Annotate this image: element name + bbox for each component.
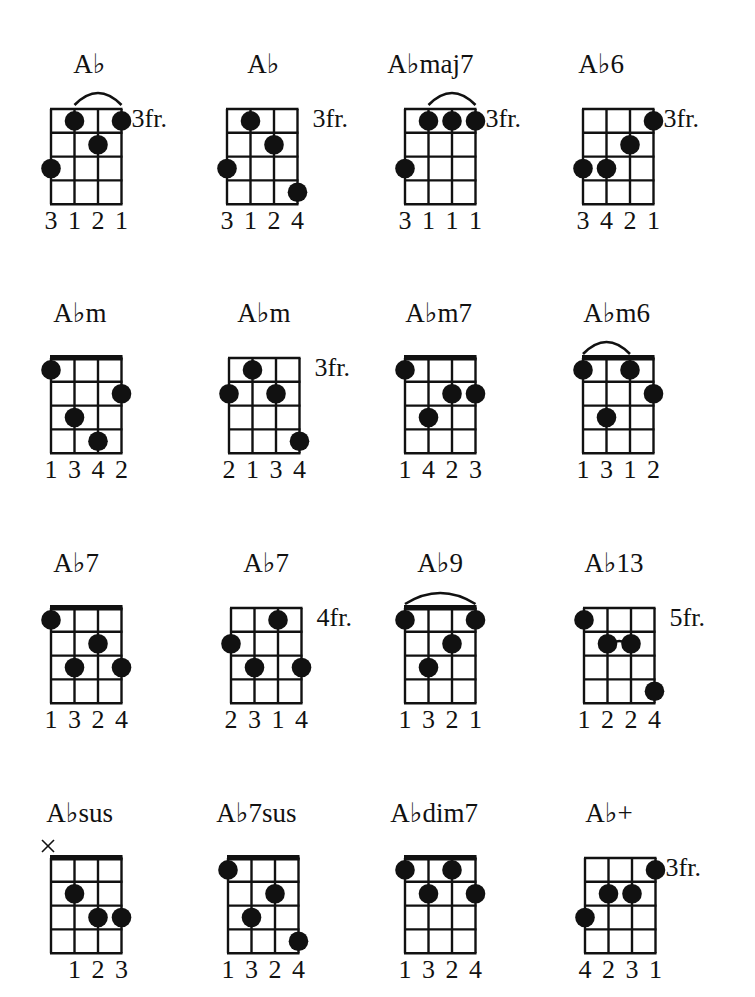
finger-number: 4 <box>466 957 486 983</box>
finger-number: 2 <box>219 457 239 483</box>
finger-number: 3 <box>41 208 61 234</box>
finger-number: 4 <box>290 457 310 483</box>
finger-number: 4 <box>112 707 132 733</box>
finger-dot <box>266 384 286 404</box>
finger-number: 2 <box>598 707 618 733</box>
finger-number: 1 <box>268 707 288 733</box>
finger-dot <box>442 634 462 654</box>
finger-dot <box>112 908 132 928</box>
chord-diagram-2: A♭maj7 3fr. 3111 <box>385 49 555 249</box>
fret-position-label: 5fr. <box>670 605 705 631</box>
finger-number: 1 <box>395 457 415 483</box>
chord-diagram-9: A♭7 4fr. 2314 <box>211 548 381 748</box>
finger-number: 3 <box>245 707 265 733</box>
finger-number: 4 <box>289 957 309 983</box>
finger-dot <box>41 610 61 630</box>
finger-number: 2 <box>88 208 108 234</box>
finger-dot <box>290 432 310 452</box>
finger-number: 3 <box>242 957 262 983</box>
finger-number: 1 <box>65 208 85 234</box>
finger-number: 2 <box>88 957 108 983</box>
finger-number: 3 <box>597 457 617 483</box>
finger-number: 2 <box>265 957 285 983</box>
chord-diagram-10: A♭9 1321 <box>385 548 555 748</box>
finger-dot <box>597 408 617 428</box>
finger-number: 1 <box>442 208 462 234</box>
chord-diagram-15: A♭+ 3fr. 4231 <box>565 798 735 997</box>
finger-dot <box>217 159 237 179</box>
finger-number: 4 <box>288 208 308 234</box>
chord-diagram-7: A♭m6 1312 <box>563 298 733 498</box>
fret-position-label: 4fr. <box>317 605 352 631</box>
finger-dot <box>221 634 241 654</box>
finger-dot <box>242 908 262 928</box>
finger-number: 2 <box>644 457 664 483</box>
finger-number: 3 <box>466 457 486 483</box>
finger-dot <box>466 384 486 404</box>
finger-number: 1 <box>466 208 486 234</box>
chord-diagram-13: A♭7sus 1324 <box>208 798 378 997</box>
finger-dot <box>112 384 132 404</box>
finger-dot <box>112 111 132 131</box>
chord-diagram-3: A♭6 3fr. 3421 <box>563 49 733 249</box>
finger-dot <box>88 135 108 155</box>
finger-dot <box>419 111 439 131</box>
finger-dot <box>599 884 619 904</box>
finger-dot <box>88 634 108 654</box>
finger-dot <box>288 183 308 203</box>
finger-dot <box>88 432 108 452</box>
fret-position-label: 3fr. <box>132 106 167 132</box>
finger-dot <box>575 908 595 928</box>
finger-number: 1 <box>65 957 85 983</box>
finger-number: 2 <box>264 208 284 234</box>
finger-dot <box>219 384 239 404</box>
finger-number: 2 <box>88 707 108 733</box>
finger-dot <box>395 610 415 630</box>
finger-number: 2 <box>621 707 641 733</box>
finger-dot <box>41 360 61 380</box>
finger-number: 3 <box>217 208 237 234</box>
finger-number: 2 <box>599 957 619 983</box>
finger-dot <box>245 658 265 678</box>
finger-dot <box>598 634 618 654</box>
finger-number: 1 <box>573 457 593 483</box>
chord-diagram-1: A♭ 3fr. 3124 <box>207 49 377 249</box>
finger-dot <box>268 610 288 630</box>
finger-number: 1 <box>574 707 594 733</box>
finger-number: 4 <box>419 457 439 483</box>
finger-dot <box>112 658 132 678</box>
fret-position-label: 3fr. <box>664 106 699 132</box>
finger-number: 3 <box>65 707 85 733</box>
finger-number: 2 <box>620 208 640 234</box>
finger-number: 4 <box>292 707 312 733</box>
finger-number: 1 <box>41 707 61 733</box>
fret-position-label: 3fr. <box>313 106 348 132</box>
finger-number: 1 <box>395 957 415 983</box>
finger-number: 3 <box>419 707 439 733</box>
finger-dot <box>620 360 640 380</box>
finger-number: 1 <box>112 208 132 234</box>
finger-number: 2 <box>442 707 462 733</box>
finger-dot <box>88 908 108 928</box>
finger-number: 1 <box>466 707 486 733</box>
finger-dot <box>573 159 593 179</box>
finger-dot <box>395 860 415 880</box>
finger-number: 1 <box>620 457 640 483</box>
finger-dot <box>466 111 486 131</box>
finger-dot <box>574 610 594 630</box>
finger-number: 3 <box>419 957 439 983</box>
finger-number: 4 <box>645 707 665 733</box>
finger-number: 3 <box>112 957 132 983</box>
finger-dot <box>395 360 415 380</box>
finger-dot <box>65 408 85 428</box>
finger-number: 3 <box>65 457 85 483</box>
finger-dot <box>218 860 238 880</box>
finger-dot <box>395 159 415 179</box>
finger-dot <box>621 634 641 654</box>
finger-dot <box>419 884 439 904</box>
finger-number: 1 <box>41 457 61 483</box>
finger-number: 1 <box>419 208 439 234</box>
finger-dot <box>466 884 486 904</box>
finger-number: 1 <box>243 457 263 483</box>
finger-dot <box>646 860 666 880</box>
